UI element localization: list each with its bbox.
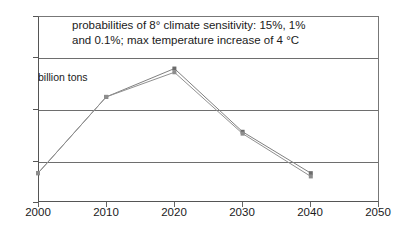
y-axis-units-label: billion tons — [38, 71, 88, 83]
data-point-marker — [309, 174, 313, 178]
series-line — [38, 69, 311, 174]
data-point-marker — [172, 67, 176, 71]
chart-title-line-1: probabilities of 8° climate sensitivity:… — [72, 18, 305, 33]
data-point-marker — [104, 95, 108, 99]
chart-title: probabilities of 8° climate sensitivity:… — [72, 18, 305, 48]
data-point-marker — [241, 132, 245, 136]
data-point-marker — [36, 171, 40, 175]
line-chart: 10 9 8 7 6 2000 2010 2020 2030 2040 2050… — [0, 0, 400, 234]
chart-title-line-2: and 0.1%; max temperature increase of 4 … — [72, 33, 305, 48]
data-point-marker — [172, 70, 176, 74]
series-2 — [36, 70, 313, 178]
series-line — [38, 72, 311, 176]
